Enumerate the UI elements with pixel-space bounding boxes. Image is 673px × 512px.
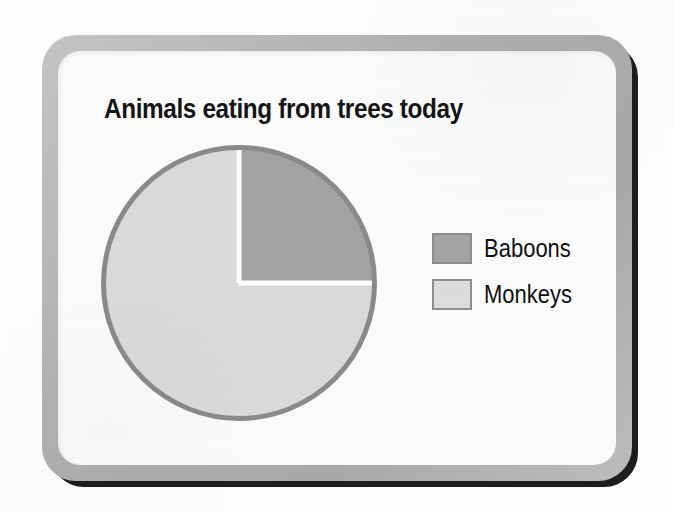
legend-label-baboons: Baboons bbox=[484, 234, 571, 263]
chart-title: Animals eating from trees today bbox=[104, 94, 463, 125]
legend-swatch-baboons bbox=[432, 233, 472, 264]
chart-card: Animals eating from trees today Baboons … bbox=[58, 51, 616, 465]
pie-chart-svg bbox=[100, 144, 378, 422]
legend-item-monkeys[interactable]: Monkeys bbox=[432, 271, 612, 317]
legend-item-baboons[interactable]: Baboons bbox=[432, 225, 612, 271]
legend-label-monkeys: Monkeys bbox=[484, 280, 572, 309]
chart-legend: Baboons Monkeys bbox=[432, 225, 612, 317]
legend-swatch-monkeys bbox=[432, 279, 472, 310]
pie-chart bbox=[100, 144, 378, 422]
